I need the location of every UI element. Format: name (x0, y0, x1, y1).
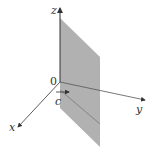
diagram: z y x 0 c (0, 0, 153, 157)
z-label: z (51, 5, 57, 16)
axes-and-plane (0, 0, 153, 157)
origin-label: 0 (50, 76, 57, 87)
y-label: y (136, 104, 142, 115)
x-axis (18, 82, 60, 127)
x-label: x (9, 122, 15, 133)
plane (60, 18, 100, 147)
c-label: c (55, 96, 61, 107)
